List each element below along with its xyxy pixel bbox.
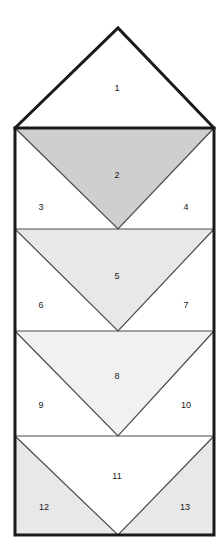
region-label-5: 5: [114, 271, 119, 281]
region-label-8: 8: [114, 371, 119, 381]
region-fills: [15, 28, 214, 535]
region-label-11: 11: [112, 471, 121, 481]
region-label-13: 13: [180, 502, 190, 512]
region-label-12: 12: [39, 502, 49, 512]
region-1-fill: [15, 28, 214, 128]
geometric-figure: 1 2 3 4 5 6 7 8 9 10 11 12 13: [0, 0, 224, 556]
region-label-7: 7: [183, 300, 188, 310]
region-label-10: 10: [181, 400, 191, 410]
region-label-2: 2: [114, 170, 119, 180]
region-label-6: 6: [38, 300, 43, 310]
region-label-4: 4: [183, 202, 188, 212]
region-label-3: 3: [38, 202, 43, 212]
figure-canvas: 1 2 3 4 5 6 7 8 9 10 11 12 13: [0, 0, 224, 556]
region-label-1: 1: [114, 83, 119, 93]
region-label-9: 9: [38, 400, 43, 410]
